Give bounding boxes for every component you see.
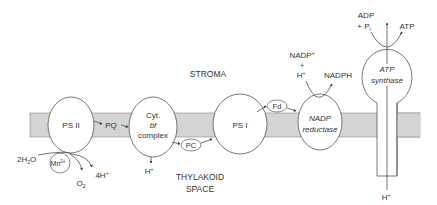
water-label: 2H2O	[17, 155, 36, 165]
atp-synthase-proton-label: H+	[382, 192, 391, 202]
photosystem-2: PS II	[48, 97, 94, 153]
atp-synthase-label-line1: ATP	[379, 65, 396, 74]
pq-label: PQ	[105, 121, 117, 130]
nadp-proton-label: H+	[297, 70, 306, 80]
pi-label: + Pi	[357, 22, 370, 32]
manganese-cluster: Mn2+	[50, 153, 70, 173]
atp-synthase-label-line2: synthase	[371, 76, 404, 85]
ps2-label: PS II	[62, 121, 79, 130]
stroma-label: STROMA	[190, 69, 227, 79]
proton-release-arrow	[72, 154, 92, 167]
cyt-label-line3: complex	[138, 131, 168, 140]
adp-label: ADP	[358, 11, 374, 20]
oxygen-release-arrow	[70, 154, 82, 170]
four-protons-label: 4H+	[95, 170, 108, 180]
pc-label: PC	[186, 141, 197, 150]
photosynthesis-electron-transport-diagram: STROMA THYLAKOID SPACE PS II PQ Cyt. bf …	[0, 0, 437, 205]
nadp-plus-label: NADP+	[289, 50, 314, 60]
nadp-reductase-label-line1: NADP	[309, 114, 332, 123]
cytochrome-bf-complex: Cyt. bf complex	[129, 97, 177, 157]
cyt-label-line2: bf	[150, 121, 157, 130]
cyt-proton-label: H+	[145, 166, 154, 176]
nadp-plus-sign: +	[300, 62, 304, 69]
ferredoxin: Fd	[267, 100, 287, 112]
oxygen-label: O2	[76, 179, 85, 189]
atp-formation-arrow	[371, 32, 402, 47]
ps1-label: PS I	[232, 121, 247, 130]
atp-synthase: ATP synthase	[362, 49, 420, 176]
nadp-reductase-label-line2: reductase	[302, 125, 338, 134]
plastocyanin: PC	[181, 139, 201, 151]
fd-label: Fd	[273, 102, 282, 111]
nadph-label: NADPH	[324, 71, 352, 80]
thylakoid-space-label-line1: THYLAKOID	[176, 172, 224, 182]
nadp-reductase: NADP reductase	[298, 94, 342, 150]
pc-to-ps1-arrow	[201, 139, 212, 143]
photosystem-1: PS I	[213, 94, 267, 154]
cyt-label-line1: Cyt.	[146, 111, 160, 120]
fd-to-nadp-reductase-arrow	[287, 108, 296, 111]
thylakoid-space-label-line2: SPACE	[186, 184, 215, 194]
atp-label: ATP	[400, 22, 415, 31]
